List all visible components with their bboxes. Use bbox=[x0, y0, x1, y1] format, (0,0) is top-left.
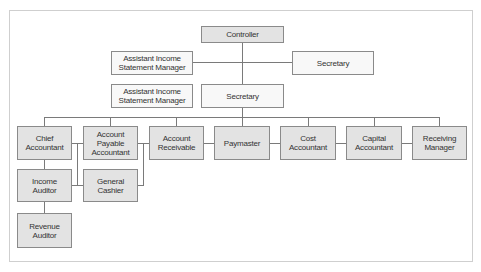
node-capital-accountant: Capital Accountant bbox=[346, 126, 402, 160]
node-revenue-auditor: Revenue Auditor bbox=[17, 213, 72, 248]
node-general-cashier: General Cashier bbox=[83, 169, 138, 202]
node-controller: Controller bbox=[201, 26, 284, 43]
node-secretary-center: Secretary bbox=[201, 84, 284, 108]
node-cost-accountant: Cost Accountant bbox=[280, 126, 336, 160]
node-assistant-income-statement-manager-top: Assistant Income Statement Manager bbox=[111, 51, 193, 75]
node-assistant-income-statement-manager-mid: Assistant Income Statement Manager bbox=[111, 84, 193, 108]
node-income-auditor: Income Auditor bbox=[17, 169, 72, 202]
node-paymaster: Paymaster bbox=[214, 126, 270, 160]
node-secretary-right: Secretary bbox=[292, 51, 374, 75]
node-receiving-manager: Receiving Manager bbox=[412, 126, 467, 160]
node-account-receivable: Account Receivable bbox=[149, 126, 204, 160]
node-account-payable-accountant: Account Payable Accountant bbox=[83, 126, 138, 160]
node-chief-accountant: Chief Accountant bbox=[17, 126, 72, 160]
